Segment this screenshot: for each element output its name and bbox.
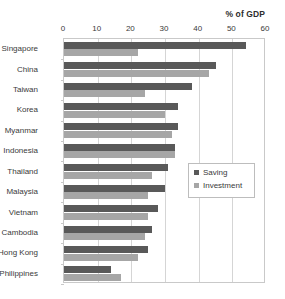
x-tick-label-40: 40 (193, 24, 202, 33)
bar-saving-philippines (64, 266, 111, 273)
bar-investment-china (64, 70, 209, 77)
x-tick-label-30: 30 (160, 24, 169, 33)
category-label-vietnam: Vietnam (9, 209, 38, 217)
bar-investment-singapore (64, 49, 138, 56)
bar-investment-taiwan (64, 90, 145, 97)
legend-label-saving: Saving (203, 168, 227, 177)
y-tick-mark (61, 284, 64, 285)
x-tick-label-10: 10 (92, 24, 101, 33)
category-label-thailand: Thailand (7, 168, 38, 176)
bar-investment-cambodia (64, 233, 145, 240)
category-label-china: China (17, 66, 38, 74)
bar-row: Cambodia (64, 223, 264, 243)
x-axis-title: % of GDP (225, 9, 265, 19)
x-tick-label-50: 50 (227, 24, 236, 33)
bar-row: Vietnam (64, 202, 264, 222)
bar-saving-malaysia (64, 185, 165, 192)
legend-label-investment: Investment (203, 181, 242, 190)
bar-row: Myanmar (64, 121, 264, 141)
bar-saving-hong-kong (64, 246, 148, 253)
bar-row: Singapore (64, 39, 264, 59)
bar-row: Philippines (64, 264, 264, 284)
bar-rows: SingaporeChinaTaiwanKoreaMyanmarIndonesi… (64, 39, 264, 282)
bar-saving-myanmar (64, 123, 178, 130)
category-label-philippines: Philippines (0, 270, 38, 278)
bar-row: Hong Kong (64, 243, 264, 263)
legend-item-investment: Investment (194, 181, 254, 190)
bar-investment-myanmar (64, 131, 172, 138)
bar-row: Korea (64, 100, 264, 120)
bar-row: Taiwan (64, 80, 264, 100)
bar-saving-singapore (64, 42, 246, 49)
category-label-cambodia: Cambodia (2, 229, 38, 237)
category-label-singapore: Singapore (2, 45, 38, 53)
x-tick-label-60: 60 (261, 24, 270, 33)
category-label-myanmar: Myanmar (5, 127, 38, 135)
bar-saving-thailand (64, 164, 168, 171)
x-tick-label-20: 20 (126, 24, 135, 33)
bar-investment-thailand (64, 172, 152, 179)
bar-investment-korea (64, 111, 165, 118)
bar-saving-cambodia (64, 226, 152, 233)
legend-swatch-investment-icon (194, 183, 199, 188)
category-label-taiwan: Taiwan (13, 86, 38, 94)
category-label-indonesia: Indonesia (3, 147, 38, 155)
category-label-korea: Korea (17, 106, 38, 114)
chart-legend: Saving Investment (188, 163, 255, 198)
category-label-malaysia: Malaysia (6, 188, 38, 196)
bar-saving-taiwan (64, 83, 192, 90)
legend-swatch-saving-icon (194, 170, 199, 175)
bar-investment-malaysia (64, 192, 148, 199)
bar-saving-china (64, 62, 216, 69)
bar-saving-vietnam (64, 205, 158, 212)
saving-investment-bar-chart: % of GDP SingaporeChinaTaiwanKoreaMyanma… (0, 0, 285, 299)
plot-area: SingaporeChinaTaiwanKoreaMyanmarIndonesi… (63, 38, 265, 283)
bar-row: China (64, 59, 264, 79)
bar-investment-hong-kong (64, 254, 138, 261)
bar-investment-vietnam (64, 213, 148, 220)
bar-investment-philippines (64, 274, 121, 281)
bar-row: Indonesia (64, 141, 264, 161)
category-label-hong-kong: Hong Kong (0, 249, 38, 257)
bar-investment-indonesia (64, 151, 175, 158)
bar-saving-indonesia (64, 144, 175, 151)
x-tick-label-0: 0 (61, 24, 65, 33)
bar-saving-korea (64, 103, 178, 110)
legend-item-saving: Saving (194, 168, 254, 177)
